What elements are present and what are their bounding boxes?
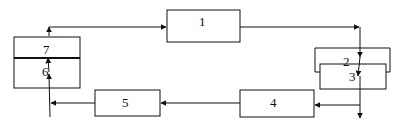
block-4 [240, 90, 314, 117]
block-7-label: 7 [43, 43, 50, 56]
arrow-up-to-6 [49, 74, 50, 117]
block-4-label: 4 [270, 96, 277, 109]
block-2-label: 2 [343, 55, 350, 68]
block-1-label: 1 [199, 15, 206, 28]
arrow-2-to-3 [358, 57, 360, 76]
block-5-label: 5 [122, 96, 129, 109]
block-3-label: 3 [349, 70, 356, 83]
block-6-label: 6 [42, 65, 49, 78]
